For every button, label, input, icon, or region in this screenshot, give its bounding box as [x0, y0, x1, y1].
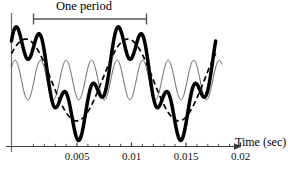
- tick-label-0015: 0.015: [162, 150, 210, 162]
- period-bracket: [33, 14, 147, 25]
- waveform-figure: One period 0.005 0.01 0.015 0.02 Time (s…: [0, 0, 288, 171]
- tick-label-0005: 0.005: [53, 150, 101, 162]
- period-label-text: One period: [56, 0, 112, 13]
- tick-label-002: 0.02: [219, 150, 262, 162]
- axis-ticks: [33, 142, 240, 146]
- tick-label-001: 0.01: [110, 150, 153, 162]
- composite-waveform-curve: [12, 27, 216, 141]
- axis-title-time: Time (sec): [235, 136, 286, 149]
